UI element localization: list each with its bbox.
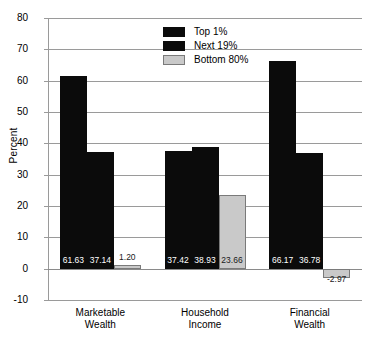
legend-swatch-bottom-80-icon: [163, 55, 185, 65]
y-axis-tick-mark: [44, 18, 48, 19]
bar-value-label: 23.66: [219, 256, 246, 265]
y-axis-tick-mark: [44, 81, 48, 82]
legend-label: Top 1%: [194, 26, 227, 37]
bar-value-label: 61.63: [60, 256, 87, 265]
gridline: [48, 112, 362, 113]
bar: [269, 61, 296, 268]
legend-swatch-top-1-icon: [163, 27, 185, 37]
bar-chart: Percent 80706050403020100-10 61.6337.141…: [0, 0, 377, 346]
x-axis-category-label-line: Wealth: [45, 319, 155, 331]
x-axis-category-label: MarketableWealth: [45, 307, 155, 331]
bar: [60, 76, 87, 269]
y-axis-tick-mark: [44, 49, 48, 50]
bar: [192, 147, 219, 269]
gridline: [48, 81, 362, 82]
y-axis-tick-label: 70: [0, 44, 28, 54]
bar-value-label: 36.78: [296, 256, 323, 265]
y-axis-tick-label: 60: [0, 76, 28, 86]
bar: [165, 151, 192, 268]
x-axis-category-label-line: Household: [150, 307, 260, 319]
x-axis-category-label: HouseholdIncome: [150, 307, 260, 331]
bar-value-label: 38.93: [192, 256, 219, 265]
y-axis-tick-mark: [44, 112, 48, 113]
x-axis-category-label-line: Marketable: [45, 307, 155, 319]
bar: [87, 152, 114, 268]
y-axis-tick-label: 20: [0, 201, 28, 211]
x-axis-category-label-line: Wealth: [255, 319, 365, 331]
y-axis-tick-mark: [44, 269, 48, 270]
y-axis-tick-label: 80: [0, 13, 28, 23]
gridline: [48, 300, 362, 301]
y-axis-tick-mark: [44, 237, 48, 238]
x-axis-category-label: FinancialWealth: [255, 307, 365, 331]
bar-value-label: 37.14: [87, 256, 114, 265]
bar-value-label: -2.97: [323, 275, 350, 284]
gridline: [48, 269, 362, 270]
y-axis-tick-mark: [44, 175, 48, 176]
legend-swatch-next-19-icon: [163, 41, 185, 51]
bar-value-label: 1.20: [114, 253, 141, 262]
y-axis-tick-label: 30: [0, 170, 28, 180]
legend-item: Next 19%: [163, 40, 248, 51]
legend-label: Bottom 80%: [194, 54, 248, 65]
legend-item: Bottom 80%: [163, 54, 248, 65]
bar: [296, 153, 323, 268]
y-axis-tick-label: 50: [0, 107, 28, 117]
gridline: [48, 143, 362, 144]
legend-item: Top 1%: [163, 26, 248, 37]
y-axis-tick-mark: [44, 206, 48, 207]
y-axis-tick-mark: [44, 300, 48, 301]
gridline: [48, 18, 362, 19]
y-axis-tick-mark: [44, 143, 48, 144]
y-axis-tick-label: 40: [0, 138, 28, 148]
y-axis-tick-label: 10: [0, 232, 28, 242]
bar-value-label: 37.42: [165, 256, 192, 265]
y-axis-tick-label: 0: [0, 264, 28, 274]
legend-label: Next 19%: [194, 40, 237, 51]
bar: [114, 265, 141, 269]
bar-value-label: 66.17: [269, 256, 296, 265]
legend: Top 1% Next 19% Bottom 80%: [163, 26, 248, 65]
y-axis-line: [48, 18, 49, 300]
x-axis-category-label-line: Income: [150, 319, 260, 331]
y-axis-tick-label: -10: [0, 295, 28, 305]
x-axis-category-label-line: Financial: [255, 307, 365, 319]
